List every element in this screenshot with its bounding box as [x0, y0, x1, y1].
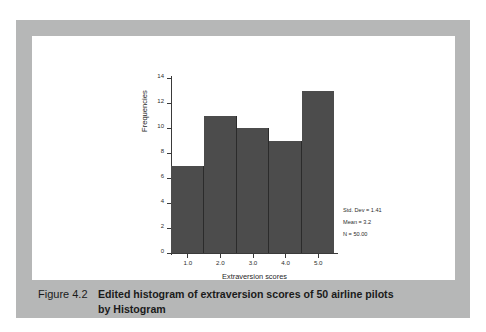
x-axis-tick: 4.0: [285, 254, 286, 258]
x-axis-tick-label: 2.0: [216, 259, 225, 266]
histogram-bar: [204, 116, 237, 254]
caption-line-2: by Histogram: [38, 303, 448, 315]
x-axis-tick-label: 1.0: [183, 259, 192, 266]
y-axis-tick-label: 10: [157, 123, 164, 129]
y-axis-tick-label: 0: [161, 248, 164, 254]
caption-number: Figure 4.2: [38, 288, 98, 300]
y-axis-tick-label: 6: [161, 173, 164, 179]
x-axis-tick: 5.0: [318, 254, 319, 258]
y-axis-title: Frequencies: [140, 90, 149, 132]
y-axis-tick-label: 12: [157, 98, 164, 104]
figure-frame: Frequencies 02468101214 1.02.03.04.05.0 …: [16, 20, 470, 318]
x-axis-line: [171, 253, 338, 254]
histogram-bar: [171, 166, 204, 254]
stat-std-dev: Std. Dev = 1.41: [343, 204, 382, 216]
y-axis-tick-label: 14: [157, 73, 164, 79]
x-axis-tick: 1.0: [187, 254, 188, 258]
histogram-bar: [237, 128, 270, 253]
x-axis-tick: 2.0: [220, 254, 221, 258]
caption-line-1: Figure 4.2 Edited histogram of extravers…: [38, 288, 448, 300]
caption-title: Edited histogram of extraversion scores …: [98, 288, 394, 300]
y-axis-tick-label: 4: [161, 198, 164, 204]
statistics-annotation: Std. Dev = 1.41 Mean = 3.2 N = 50.00: [343, 204, 382, 240]
stat-mean: Mean = 3.2: [343, 216, 382, 228]
figure-caption: Figure 4.2 Edited histogram of extravers…: [38, 288, 448, 315]
histogram-bar: [302, 91, 334, 253]
histogram-bar: [269, 141, 302, 254]
plot-area: [171, 78, 334, 253]
stat-n: N = 50.00: [343, 228, 382, 240]
x-axis-tick-label: 5.0: [314, 259, 323, 266]
chart-panel: Frequencies 02468101214 1.02.03.04.05.0 …: [32, 36, 455, 280]
figure-page: Frequencies 02468101214 1.02.03.04.05.0 …: [0, 0, 486, 332]
y-axis-tick-label: 2: [161, 223, 164, 229]
x-axis-tick-label: 3.0: [249, 259, 258, 266]
histogram-bars: [171, 78, 334, 253]
y-axis-tick-label: 8: [161, 148, 164, 154]
x-axis-tick: 3.0: [253, 254, 254, 258]
x-axis-tick-label: 4.0: [281, 259, 290, 266]
x-axis-title: Extraversion scores: [171, 272, 338, 281]
